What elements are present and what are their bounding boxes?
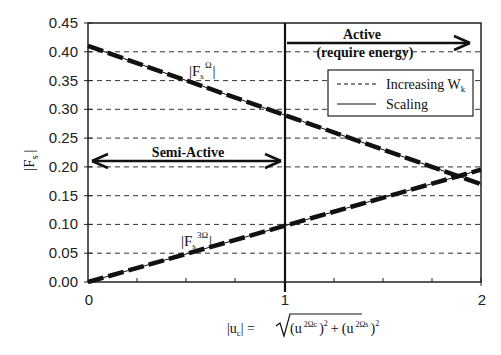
active-label: Active [343, 27, 381, 42]
svg-text:0.35: 0.35 [49, 72, 78, 89]
svg-text:0.30: 0.30 [49, 100, 78, 117]
semi-active-annotation: Semi-Active [92, 145, 281, 168]
svg-text:0.25: 0.25 [49, 129, 78, 146]
active-annotation: Active (require energy) [287, 27, 470, 61]
svg-text:0.00: 0.00 [49, 273, 78, 290]
svg-text:|uc| =: |uc| = [227, 321, 255, 338]
y-tick-labels: 0.45 0.40 0.35 0.30 0.25 0.20 0.15 0.10 … [49, 14, 78, 290]
x-axis-label: |uc| = (u2Ωc)2+(u2Ωs)2 [227, 314, 379, 338]
legend: Increasing Wk Scaling [328, 70, 473, 116]
svg-text:0.45: 0.45 [49, 14, 78, 31]
legend-label-scaling: Scaling [386, 97, 428, 112]
chart-canvas: 0.45 0.40 0.35 0.30 0.25 0.20 0.15 0.10 … [0, 0, 501, 355]
svg-text:0.05: 0.05 [49, 244, 78, 261]
f-omega-label: |FsΩ| [189, 60, 216, 81]
svg-text:(u2Ωc)2+(u2Ωs)2: (u2Ωc)2+(u2Ωs)2 [290, 319, 379, 337]
svg-text:0.15: 0.15 [49, 187, 78, 204]
svg-text:0.40: 0.40 [49, 43, 78, 60]
svg-text:2: 2 [478, 291, 486, 308]
svg-text:0.20: 0.20 [49, 158, 78, 175]
semi-active-label: Semi-Active [152, 145, 224, 160]
y-axis-label: |Fs| [21, 149, 40, 170]
svg-text:0.10: 0.10 [49, 215, 78, 232]
legend-label-increasing-wk: Increasing Wk [386, 77, 466, 94]
active-sublabel: (require energy) [316, 45, 413, 61]
svg-text:|Fs|: |Fs| [21, 149, 40, 170]
x-tick-labels: 0 1 2 [85, 291, 486, 308]
svg-text:0: 0 [85, 291, 93, 308]
svg-text:1: 1 [281, 291, 289, 308]
svg-text:|FsΩ|: |FsΩ| [189, 60, 216, 81]
